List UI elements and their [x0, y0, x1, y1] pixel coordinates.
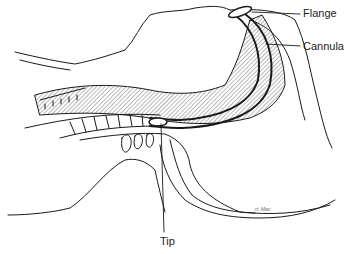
cannula-label: Cannula — [303, 41, 344, 52]
tip-label: Tip — [160, 236, 175, 247]
artist-signature: rt. Mac — [255, 206, 270, 212]
airway-illustration: Flange Cannula Tip rt. Mac — [0, 0, 348, 254]
anatomy-drawing — [0, 0, 348, 254]
flange-label: Flange — [303, 8, 337, 19]
